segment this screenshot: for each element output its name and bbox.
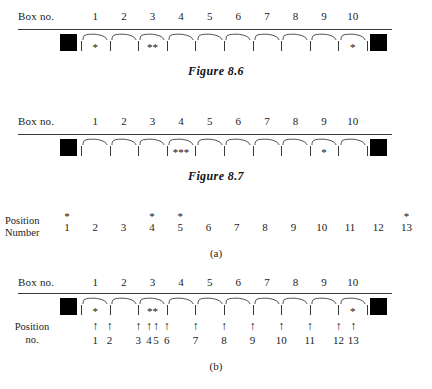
box-number-10: 10 [344, 10, 362, 22]
part-b-caption: (b) [0, 360, 432, 372]
left-terminator-square [60, 139, 77, 156]
box-divider-tick [281, 41, 282, 51]
position-number-7: 7 [228, 221, 246, 233]
box-brace [225, 33, 251, 40]
box-brace [82, 297, 108, 304]
position-arrow-12: ↑ [331, 320, 345, 332]
box-no-label: Box no. [18, 10, 54, 22]
box-number-9: 9 [315, 276, 333, 288]
box-divider-tick [81, 305, 82, 315]
box-divider-tick [253, 41, 254, 51]
position-number-label: PositionNumber [5, 215, 39, 239]
right-terminator-square [370, 139, 387, 156]
position-number-4: 4 [143, 221, 161, 233]
box-number-5: 5 [201, 10, 219, 22]
position-number-8: 8 [256, 221, 274, 233]
position-arrow-10: ↑ [274, 320, 288, 332]
box-content-1: * [93, 306, 99, 317]
box-number-9: 9 [315, 115, 333, 127]
box-number-2: 2 [115, 10, 133, 22]
box-brace [254, 138, 280, 145]
box-number-8: 8 [287, 115, 305, 127]
box-divider-tick [167, 305, 168, 315]
box-divider-tick [110, 146, 111, 156]
position-number-2: 2 [86, 221, 104, 233]
box-divider-tick [195, 305, 196, 315]
box-brace [168, 297, 194, 304]
position-arrow-8: ↑ [217, 320, 231, 332]
position-no-2: 2 [101, 334, 119, 346]
box-number-1: 1 [86, 10, 104, 22]
box-divider-tick [338, 146, 339, 156]
box-number-3: 3 [144, 10, 162, 22]
box-divider-tick [224, 146, 225, 156]
box-brace [197, 138, 223, 145]
figure-8-7: Box no.12345678910****Figure 8.7 [0, 105, 432, 195]
left-terminator-square [60, 298, 77, 315]
box-number-1: 1 [86, 276, 104, 288]
position-no-8: 8 [215, 334, 233, 346]
box-brace [225, 138, 251, 145]
horizontal-rule [18, 293, 392, 294]
box-brace [311, 138, 337, 145]
box-divider-tick [224, 305, 225, 315]
box-number-8: 8 [287, 10, 305, 22]
box-number-2: 2 [115, 276, 133, 288]
box-no-label: Box no. [18, 276, 54, 288]
box-content-4: *** [173, 147, 190, 158]
left-terminator-square [60, 34, 77, 51]
box-number-7: 7 [258, 115, 276, 127]
box-divider-tick [338, 305, 339, 315]
box-number-6: 6 [229, 10, 247, 22]
position-number-1: 1 [58, 221, 76, 233]
box-number-9: 9 [315, 10, 333, 22]
box-divider-tick [281, 146, 282, 156]
box-brace [139, 297, 165, 304]
position-no-13: 13 [344, 334, 362, 346]
box-divider-tick [110, 305, 111, 315]
box-divider-tick [167, 146, 168, 156]
position-no-9: 9 [244, 334, 262, 346]
position-number-6: 6 [200, 221, 218, 233]
horizontal-rule [18, 29, 392, 30]
position-number-label-line1: Position [5, 215, 39, 226]
box-number-1: 1 [86, 115, 104, 127]
box-number-8: 8 [287, 276, 305, 288]
box-content-10: * [350, 42, 356, 53]
box-divider-tick [195, 41, 196, 51]
box-brace [111, 138, 137, 145]
box-brace [340, 297, 366, 304]
box-divider-tick [338, 41, 339, 51]
box-brace [197, 33, 223, 40]
box-number-4: 4 [172, 115, 190, 127]
box-brace [282, 33, 308, 40]
box-brace [168, 33, 194, 40]
position-number-11: 11 [341, 221, 359, 233]
box-divider-tick [167, 41, 168, 51]
box-brace [340, 33, 366, 40]
box-divider-tick [281, 305, 282, 315]
box-brace [197, 297, 223, 304]
box-number-6: 6 [229, 276, 247, 288]
box-divider-tick [81, 41, 82, 51]
box-divider-tick [367, 305, 368, 315]
horizontal-rule [18, 134, 392, 135]
box-number-5: 5 [201, 115, 219, 127]
box-content-3: ** [147, 42, 158, 53]
box-brace [340, 138, 366, 145]
box-brace [282, 297, 308, 304]
box-brace [311, 33, 337, 40]
box-number-5: 5 [201, 276, 219, 288]
position-number-13: 13 [398, 221, 416, 233]
box-divider-tick [110, 41, 111, 51]
box-divider-tick [367, 41, 368, 51]
right-terminator-square [370, 298, 387, 315]
box-content-9: * [321, 147, 327, 158]
box-divider-tick [224, 41, 225, 51]
box-number-10: 10 [344, 115, 362, 127]
box-divider-tick [195, 146, 196, 156]
position-number-5: 5 [171, 221, 189, 233]
box-brace [139, 33, 165, 40]
box-brace [82, 138, 108, 145]
box-brace [282, 138, 308, 145]
